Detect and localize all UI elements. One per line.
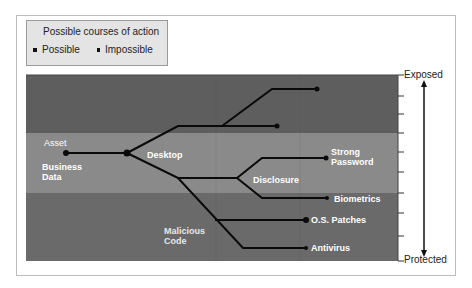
exposure-arrow-icon [421,80,427,257]
os-patches-label: O.S. Patches [311,215,366,225]
biometrics-label: Biometrics [334,194,381,204]
impossible-end-icon [304,246,308,250]
possible-end-icon [275,124,280,129]
antivirus-label: Antivirus [311,243,350,253]
possible-end-icon [315,87,320,92]
malicious-code-label: MaliciousCode [164,226,205,246]
disclosure-label: Disclosure [253,175,299,185]
axis-ticks [398,75,404,261]
asset-node-icon [63,150,69,156]
impossible-end-icon [325,196,329,200]
possible-end-icon [324,156,329,161]
strong-password-label: StrongPassword [331,147,374,167]
business-data-label: BusinessData [42,162,82,182]
band-top [26,75,398,133]
asset-header-label: Asset [44,138,67,148]
desktop-label: Desktop [147,150,183,160]
desktop-node-icon [124,150,131,157]
protected-label: Protected [404,254,447,265]
exposed-label: Exposed [404,69,443,80]
possible-end-icon [303,217,309,223]
attack-tree-diagram [0,0,472,288]
